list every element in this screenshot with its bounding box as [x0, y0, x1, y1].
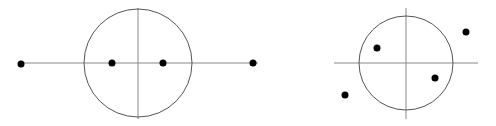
point	[432, 75, 439, 82]
diagram-canvas	[0, 0, 496, 126]
point	[463, 29, 470, 36]
diagram-left	[18, 8, 259, 119]
point	[18, 61, 25, 68]
point	[342, 92, 349, 99]
diagram-right	[334, 8, 478, 119]
point	[250, 60, 257, 67]
point	[374, 45, 381, 52]
point	[109, 60, 116, 67]
point	[160, 60, 167, 67]
